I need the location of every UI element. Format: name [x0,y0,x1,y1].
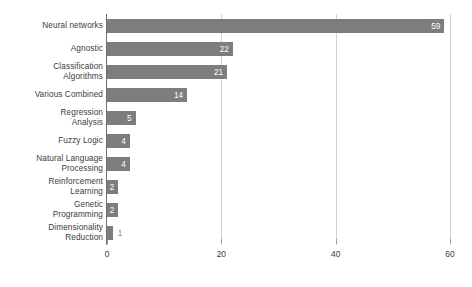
bar: 59 [107,19,444,33]
x-tick-mark-0 [107,239,108,244]
bar: 4 [107,134,130,148]
bar: 2 [107,203,118,217]
y-axis-label: Various Combined [0,90,103,100]
bar-value-label: 14 [174,90,183,99]
bar-value-label: 4 [121,137,126,146]
bar: 2 [107,180,118,194]
bar-chart: Neural networksAgnosticClassification Al… [0,0,472,287]
bar-value-label: 2 [110,206,115,215]
x-tick-mark-40 [336,239,337,244]
bar: 21 [107,65,227,79]
y-axis-label: Regression Analysis [0,108,103,128]
y-axis-label: Natural Language Processing [0,154,103,174]
bar-value-label: 2 [110,183,115,192]
bar-value-label: 4 [121,160,126,169]
y-axis-label: Genetic Programming [0,200,103,220]
y-axis-label: Classification Algorithms [0,62,103,82]
gridline-60 [450,14,451,245]
bar: 22 [107,42,233,56]
bar-value-label: 59 [431,21,440,30]
bar-value-label: 1 [118,229,123,238]
bar-value-label: 22 [220,44,229,53]
y-axis-label: Agnostic [0,44,103,54]
x-tick-mark-20 [221,239,222,244]
x-tick-label-20: 20 [217,249,226,259]
y-axis-label: Fuzzy Logic [0,136,103,146]
bar: 14 [107,88,187,102]
y-axis-category-labels: Neural networksAgnosticClassification Al… [0,14,103,245]
bar-value-label: 21 [214,67,223,76]
x-axis-ticks: 0204060 [107,245,450,265]
x-tick-label-40: 40 [331,249,340,259]
plot-area: 59222114544221 [107,14,450,245]
bar-value-label: 5 [127,113,132,122]
x-tick-label-60: 60 [445,249,454,259]
x-tick-mark-60 [450,239,451,244]
y-axis-label: Neural networks [0,21,103,31]
bar: 5 [107,111,136,125]
y-axis-label: Dimensionality Reduction [0,223,103,243]
x-tick-label-0: 0 [105,249,110,259]
gridline-40 [336,14,337,245]
bar: 4 [107,157,130,171]
y-axis-label: Reinforcement Learning [0,177,103,197]
